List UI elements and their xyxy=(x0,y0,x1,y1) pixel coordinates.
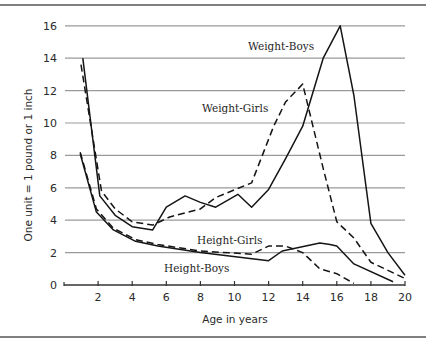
y-tick-label: 16 xyxy=(43,20,57,33)
y-tick-label: 4 xyxy=(50,214,57,227)
y-tick-label: 8 xyxy=(50,149,57,162)
x-tick-label: 2 xyxy=(95,291,102,304)
x-tick-label: 4 xyxy=(129,291,136,304)
x-tick-label: 14 xyxy=(296,291,310,304)
label-weight-boys: Weight-Boys xyxy=(248,40,314,52)
growth-chart: One unit = 1 pound or 1 inch 02468101214… xyxy=(0,0,426,346)
series-weight-girls xyxy=(81,65,405,279)
y-tick-label: 2 xyxy=(50,247,57,260)
x-tick-label: 12 xyxy=(262,291,276,304)
gridlines xyxy=(65,26,405,253)
y-axis-ticks: 0246810121416 xyxy=(43,20,57,292)
x-tick-label: 20 xyxy=(398,291,412,304)
y-tick-label: 12 xyxy=(43,85,57,98)
x-tick-label: 16 xyxy=(330,291,344,304)
y-tick-label: 6 xyxy=(50,182,57,195)
label-height-girls: Height-Girls xyxy=(197,234,263,246)
x-tick-label: 6 xyxy=(163,291,170,304)
label-weight-girls: Weight-Girls xyxy=(202,102,268,114)
x-axis: 2468101214161820 xyxy=(64,281,412,304)
y-tick-label: 10 xyxy=(43,117,57,130)
y-tick-label: 0 xyxy=(50,279,57,292)
x-tick-label: 8 xyxy=(197,291,204,304)
x-axis-title: Age in years xyxy=(202,313,267,325)
x-tick-label: 10 xyxy=(228,291,242,304)
x-tick-label: 18 xyxy=(364,291,378,304)
y-axis-title: One unit = 1 pound or 1 inch xyxy=(22,88,34,241)
y-tick-label: 14 xyxy=(43,52,57,65)
label-height-boys: Height-Boys xyxy=(164,262,229,274)
